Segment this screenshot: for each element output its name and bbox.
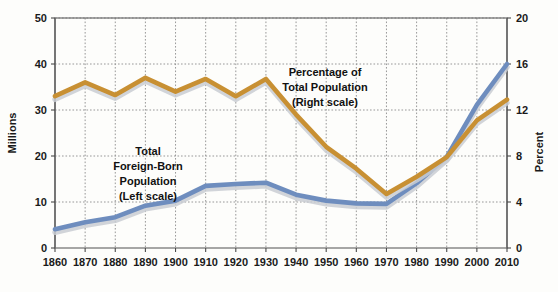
- x-tick-label: 1930: [254, 256, 278, 268]
- left-tick-label: 30: [35, 104, 47, 116]
- annotation-right-series: Percentage of Total Population (Right sc…: [282, 66, 368, 108]
- right-tick-label: 16: [516, 58, 528, 70]
- right-tick-label: 20: [516, 12, 528, 24]
- annotation-left-line1: Total: [135, 145, 160, 157]
- x-tick-label: 1880: [103, 256, 127, 268]
- dual-axis-line-chart: 01020304050 048121620 186018701880189019…: [0, 0, 558, 292]
- left-tick-label: 50: [35, 12, 47, 24]
- x-tick-label: 1980: [404, 256, 428, 268]
- annotation-left-line4: (Left scale): [119, 190, 177, 202]
- annotation-left-line2: Foreign-Born: [113, 160, 183, 172]
- left-tick-label: 0: [41, 242, 47, 254]
- x-tick-label: 1950: [314, 256, 338, 268]
- x-tick-label: 1970: [374, 256, 398, 268]
- left-tick-label: 20: [35, 150, 47, 162]
- x-tick-label: 1920: [224, 256, 248, 268]
- annotation-right-line3: (Right scale): [292, 96, 358, 108]
- annotation-right-line1: Percentage of: [289, 66, 362, 78]
- left-tick-label: 10: [35, 196, 47, 208]
- annotation-right-line2: Total Population: [282, 81, 368, 93]
- x-tick-label: 1860: [43, 256, 67, 268]
- x-tick-label: 1900: [163, 256, 187, 268]
- x-tick-label: 1910: [193, 256, 217, 268]
- x-tick-label: 1940: [284, 256, 308, 268]
- right-tick-label: 8: [516, 150, 522, 162]
- right-tick-label: 0: [516, 242, 522, 254]
- x-tick-label: 1990: [434, 256, 458, 268]
- annotation-left-line3: Population: [120, 175, 177, 187]
- x-tick-label: 1870: [73, 256, 97, 268]
- left-axis-title: Millions: [6, 113, 18, 154]
- left-tick-label: 40: [35, 58, 47, 70]
- right-axis-title: Percent: [533, 131, 545, 172]
- x-tick-label: 1960: [344, 256, 368, 268]
- right-tick-label: 12: [516, 104, 528, 116]
- x-tick-label: 2000: [465, 256, 489, 268]
- x-tick-label: 2010: [495, 256, 519, 268]
- chart-canvas: 01020304050 048121620 186018701880189019…: [0, 0, 558, 292]
- x-tick-label: 1890: [133, 256, 157, 268]
- right-tick-label: 4: [516, 196, 523, 208]
